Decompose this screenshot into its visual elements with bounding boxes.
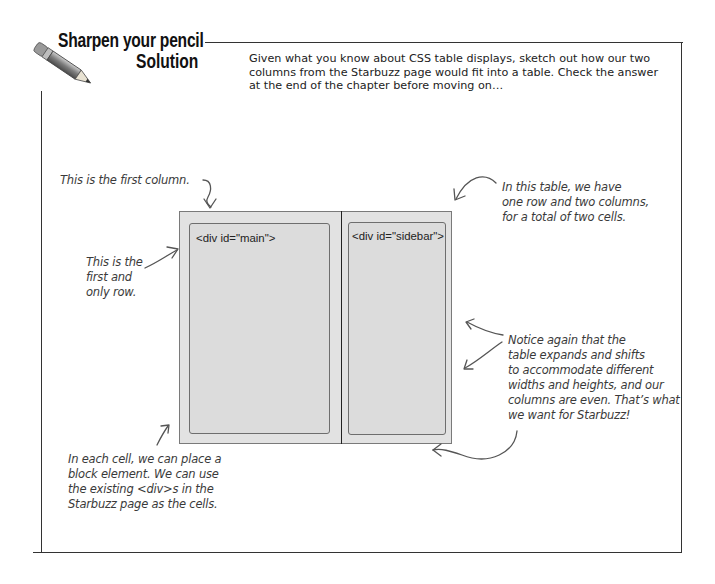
- annotation-arrows: [0, 0, 715, 584]
- arrow-expands-down-icon: [465, 342, 502, 368]
- arrow-first-row-icon: [145, 250, 177, 268]
- arrow-table-corner-icon: [456, 177, 496, 199]
- arrow-starbuzz-icon: [433, 431, 517, 459]
- arrow-each-cell-icon: [157, 426, 168, 445]
- arrow-expands-up-icon: [467, 322, 503, 335]
